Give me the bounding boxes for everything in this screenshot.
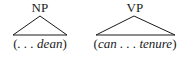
np-label: NP — [4, 1, 76, 15]
np-subtree: NP (. . . dean) — [4, 0, 76, 60]
np-triangle-icon — [4, 15, 76, 37]
vp-label: VP — [86, 1, 184, 15]
np-leaf-text: (. . . dean) — [4, 36, 76, 51]
vp-leaf-words: can . . . tenure — [98, 36, 172, 51]
vp-leaf-close-paren: ) — [172, 36, 176, 51]
vp-subtree: VP (can . . . tenure) — [86, 0, 184, 60]
vp-leaf-text: (can . . . tenure) — [86, 36, 184, 51]
np-leaf-close-paren: ) — [62, 36, 66, 51]
np-leaf-words: . . . dean — [18, 36, 63, 51]
vp-triangle-icon — [86, 15, 184, 37]
